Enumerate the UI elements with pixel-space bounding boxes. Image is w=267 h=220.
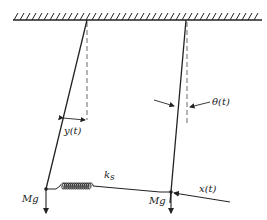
spring-coil [46, 183, 171, 192]
theta-arrow-left [154, 100, 174, 106]
x-force-arrow [174, 193, 230, 202]
spring-constant-label: ks [104, 169, 115, 182]
spring-constant-subscript: s [110, 172, 115, 182]
theta-arrow-right [190, 102, 210, 107]
y-label: y(t) [63, 125, 82, 136]
ceiling-hatching [14, 13, 258, 20]
right-pendulum [154, 20, 230, 213]
coupled-pendulum-diagram: y(t) ks θ(t) x(t) Mg Mg [0, 0, 267, 220]
x-label: x(t) [199, 183, 217, 194]
spring [46, 183, 171, 192]
left-pendulum-rod [46, 20, 87, 189]
right-weight-label: Mg [148, 195, 166, 206]
left-weight-label: Mg [21, 193, 39, 204]
ceiling [13, 13, 262, 20]
right-pendulum-rod [170, 20, 186, 203]
y-displacement-arrow [63, 118, 85, 120]
theta-label: θ(t) [212, 96, 230, 107]
